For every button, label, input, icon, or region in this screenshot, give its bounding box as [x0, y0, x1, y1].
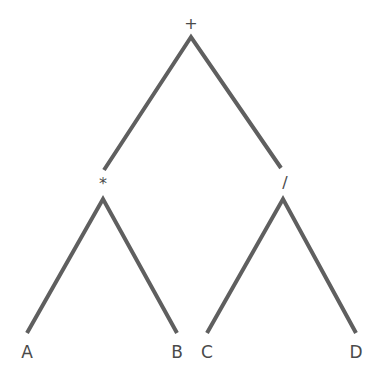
edge-mul-a-b: [27, 199, 177, 333]
node-root-plus: +: [184, 16, 197, 32]
node-multiply: *: [99, 176, 107, 192]
edge-div-c-d: [207, 199, 356, 333]
leaf-c: C: [201, 344, 213, 361]
tree-edges: [0, 0, 378, 370]
leaf-a: A: [21, 344, 33, 361]
leaf-d: D: [349, 344, 362, 361]
node-divide: /: [282, 175, 287, 191]
leaf-b: B: [171, 344, 183, 361]
edge-root-mul-div: [104, 37, 281, 170]
